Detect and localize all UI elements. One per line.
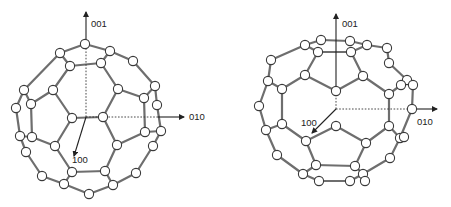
carbon-atom <box>316 35 325 44</box>
carbon-atom <box>277 84 286 93</box>
axis-100-label: 100 <box>301 117 317 128</box>
bond <box>316 165 355 166</box>
carbon-atom <box>67 113 76 122</box>
carbon-atom <box>150 81 159 90</box>
carbon-atom <box>298 169 307 178</box>
carbon-atom <box>311 160 320 169</box>
bond <box>271 45 305 60</box>
carbon-atom <box>408 80 417 89</box>
carbon-atom <box>266 55 275 64</box>
carbon-atom <box>67 167 76 176</box>
carbon-atom <box>140 127 149 136</box>
carbon-atom <box>98 112 107 121</box>
carbon-atom <box>37 171 46 180</box>
axis-001-label: 001 <box>342 18 358 29</box>
carbon-atom <box>156 126 165 135</box>
carbon-atom <box>152 100 161 109</box>
carbon-atom <box>261 125 270 134</box>
carbon-atom <box>384 121 393 130</box>
carbon-atom <box>384 58 393 67</box>
axes-group <box>74 12 184 156</box>
carbon-atom <box>277 119 286 128</box>
carbon-atom <box>272 150 281 159</box>
carbon-atom <box>15 131 24 140</box>
carbon-atom <box>128 56 137 65</box>
c60-right-figure: 001 010 100 <box>254 14 437 186</box>
bond <box>24 53 60 90</box>
carbon-atom <box>139 93 148 102</box>
carbon-atom <box>385 153 394 162</box>
axis-001-label: 001 <box>91 18 107 29</box>
carbon-atom <box>27 132 36 141</box>
carbon-atom <box>345 36 354 45</box>
carbon-atom <box>100 166 109 175</box>
carbon-atom <box>313 47 322 56</box>
carbon-atom <box>11 103 20 112</box>
carbon-atom <box>300 70 309 79</box>
c60-left-figure: 001 010 100 <box>11 12 204 199</box>
carbon-atom <box>358 71 367 80</box>
carbon-atom <box>108 180 117 189</box>
axis-100-arrow <box>74 117 86 156</box>
carbon-atom <box>65 61 74 70</box>
diagram-canvas: 001 010 100 001 010 100 <box>0 0 451 207</box>
carbon-atom <box>382 43 391 52</box>
carbon-atom <box>314 176 323 185</box>
carbon-atom <box>26 99 35 108</box>
carbon-atom <box>113 84 122 93</box>
carbon-atom <box>399 132 408 141</box>
carbon-atom <box>50 141 59 150</box>
axis-100-label: 100 <box>72 154 88 165</box>
carbon-atom <box>350 161 359 170</box>
bond <box>305 75 336 91</box>
carbon-atom <box>384 89 393 98</box>
carbon-atom <box>105 46 114 55</box>
carbon-atom <box>346 47 355 56</box>
carbon-atom <box>21 147 30 156</box>
carbon-atom <box>148 141 157 150</box>
carbon-atom <box>96 58 105 67</box>
carbon-atom <box>84 189 93 198</box>
carbon-atom <box>345 176 354 185</box>
carbon-atom <box>112 140 121 149</box>
carbon-atom <box>360 176 369 185</box>
carbon-atom <box>80 39 89 48</box>
carbon-atom <box>301 136 310 145</box>
carbon-atom <box>300 40 309 49</box>
axis-010-label: 010 <box>189 111 205 122</box>
carbon-atom <box>254 101 263 110</box>
carbon-atom <box>59 179 68 188</box>
carbon-atom <box>55 48 64 57</box>
carbon-atom <box>396 80 405 89</box>
carbon-atom <box>19 85 28 94</box>
carbon-atom <box>131 168 140 177</box>
axis-010-label: 010 <box>417 116 433 127</box>
carbon-atom <box>331 86 340 95</box>
carbon-atom <box>331 121 340 130</box>
carbon-atom <box>263 76 272 85</box>
bond <box>336 126 366 143</box>
carbon-atom <box>362 40 371 49</box>
carbon-atom <box>48 85 57 94</box>
carbon-atom <box>407 104 416 113</box>
carbon-atom <box>361 138 370 147</box>
